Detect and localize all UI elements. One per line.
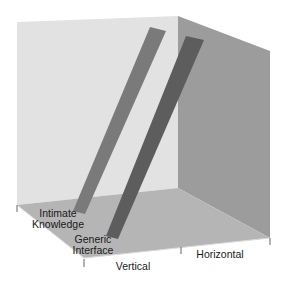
label-generic-line2: Interface	[73, 244, 114, 256]
label-intimate-line2: Knowledge	[32, 218, 84, 230]
axis-label-vertical: Vertical	[116, 260, 150, 272]
axis-label-horizontal: Horizontal	[196, 248, 243, 260]
box-diagram: Intimate Knowledge Generic Interface Ver…	[0, 0, 285, 286]
